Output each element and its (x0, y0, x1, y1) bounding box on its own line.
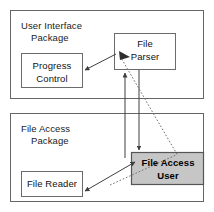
file-access-user-label-line1: File Access (141, 157, 194, 168)
file-access-user-label: File Access User (133, 157, 203, 182)
file-reader-label: File Reader (21, 178, 83, 191)
user-interface-package-label-line1: User Interface (21, 20, 82, 31)
file-parser-label: File Parser (114, 38, 176, 63)
file-access-package-label-line2: Package (21, 135, 70, 147)
file-access-user-label-line2: User (157, 170, 179, 181)
progress-control-label-line1: Progress (33, 60, 72, 71)
progress-control-label-line2: Control (36, 73, 67, 84)
connector-file-parser-dependency-dotted (120, 56, 178, 156)
user-interface-package-label: User Interface Package (21, 20, 82, 44)
progress-control-label: Progress Control (21, 60, 83, 85)
connector-file-parser-to-progress-control (85, 54, 116, 70)
file-parser-label-line2: Parser (131, 51, 160, 62)
file-access-package-label-line1: File Access (21, 123, 70, 134)
file-access-package-label: File Access Package (21, 123, 70, 147)
file-reader-label-line1: File Reader (27, 178, 77, 189)
file-parser-label-line1: File (137, 38, 153, 49)
package-diagram: User Interface Package File Access Packa… (0, 0, 214, 212)
connector-file-reader-file-access-user (85, 162, 135, 191)
user-interface-package-label-line2: Package (21, 32, 82, 44)
